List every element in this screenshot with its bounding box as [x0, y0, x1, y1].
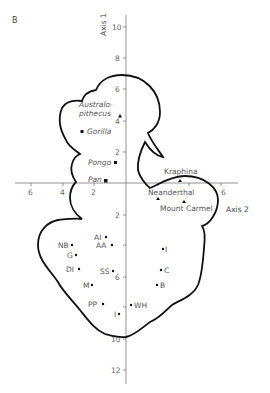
tick-label: 6 [221, 188, 226, 197]
di-label: DI [66, 265, 74, 274]
neanderthal-marker [156, 197, 160, 200]
tick-label: 2 [91, 188, 96, 197]
g-marker [75, 254, 77, 256]
gorilla-marker [81, 130, 84, 133]
tick-label: 12 [111, 366, 121, 375]
kraphina-label: Kraphina [164, 167, 198, 176]
tick-label: 6 [115, 273, 120, 282]
tick-label: 4 [60, 188, 65, 197]
gorilla-label: Gorilla [87, 127, 112, 136]
pongo-marker [114, 161, 117, 164]
i-right-label: I [165, 245, 167, 254]
pp-label: PP [88, 300, 98, 309]
australopithecus-label: pithecus [78, 109, 111, 118]
pan-label: Pan [88, 175, 102, 184]
mount-carmel-marker [182, 200, 186, 203]
pan-marker [104, 179, 108, 183]
axis-2-label: Axis 2 [226, 205, 249, 214]
panel-label: B [12, 16, 18, 25]
tick-label: 2 [115, 211, 120, 220]
wh-label: WH [134, 301, 147, 310]
tick-label: 2 [115, 148, 120, 157]
australopithecus-label: Australo- [78, 100, 113, 109]
tick-label: 6 [115, 85, 120, 94]
i-left-label: I [114, 310, 116, 319]
aa-label: AA [96, 241, 107, 250]
pongo-label: Pongo [88, 158, 112, 167]
c-label: C [164, 266, 169, 275]
wh-marker [130, 304, 132, 306]
aa-marker [111, 244, 113, 246]
m-label: M [83, 281, 89, 290]
di-marker [78, 268, 80, 270]
i-right-marker [162, 248, 164, 250]
nb-marker [71, 244, 73, 246]
tick-label: 10 [112, 23, 122, 32]
b-label: B [160, 281, 165, 290]
ss-marker [112, 270, 114, 272]
m-marker [91, 284, 93, 286]
axis-1-label: Axis 1 [99, 13, 108, 36]
tick-label: 8 [115, 54, 120, 63]
i-left-marker [118, 313, 120, 315]
ai-marker [105, 236, 107, 238]
c-marker [160, 269, 162, 271]
neanderthal-label: Neanderthal [148, 188, 194, 197]
pp-marker [102, 303, 104, 305]
ordination-diagram: B 10 8 6 4 2 2 6 10 12 Axis 1 [0, 0, 270, 393]
b-marker [156, 284, 158, 286]
tick-label: 6 [28, 188, 33, 197]
australopithecus-marker [118, 114, 122, 118]
g-label: G [67, 251, 73, 260]
mount-carmel-label: Mount Carmel [160, 204, 213, 213]
nb-label: NB [58, 241, 69, 250]
ss-label: SS [100, 267, 110, 276]
tick-label: 4 [115, 117, 120, 126]
kraphina-marker [178, 179, 182, 182]
vertical-axis: 10 8 6 4 2 2 6 10 12 Axis 1 [99, 13, 126, 384]
